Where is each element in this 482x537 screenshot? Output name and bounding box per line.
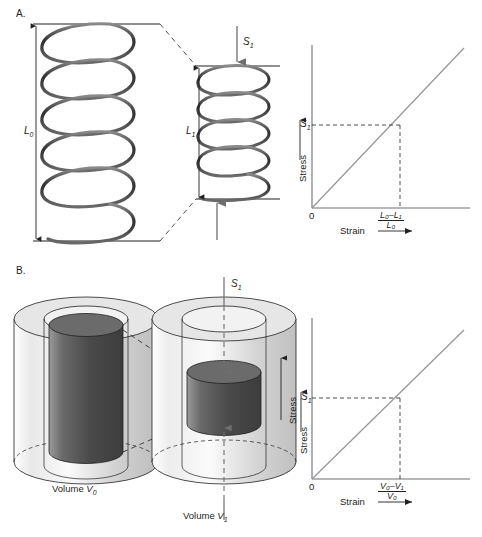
- compressed-volume-caption: Volume V1: [183, 510, 228, 523]
- cylinder-connector-lines: [123, 330, 186, 452]
- plot-b-xlabel: Strain: [340, 496, 365, 507]
- plot-b-ylabel: Stress: [298, 427, 309, 454]
- plot-a-xlabel: Strain: [340, 225, 365, 236]
- stress-strain-figure: A. L0 L1 S1 Stress S1 0 L₀–L₁ L₀ Strain …: [0, 0, 482, 537]
- relaxed-spring-group: [33, 24, 160, 243]
- cylinder-stress-label: Stress: [287, 397, 298, 424]
- relaxed-length-label: L0: [24, 125, 33, 138]
- compressed-length-label: L1: [186, 125, 195, 138]
- force-label-b: S1: [231, 278, 242, 291]
- plot-b-strain-fraction: V₀–V₁ V₀: [378, 482, 406, 502]
- panel-b-label: B.: [16, 265, 26, 276]
- plot-b-origin-label: 0: [309, 481, 314, 492]
- force-label-a: S1: [243, 36, 254, 49]
- plot-a-stress-level-label: S1: [300, 118, 311, 131]
- panel-a-label: A.: [16, 8, 26, 19]
- plot-a-ylabel: Stress: [297, 155, 308, 182]
- plot-b-graphics: [301, 318, 470, 502]
- compressed-cylinder-group: [152, 277, 296, 520]
- plot-b-stress-level-label: S1: [301, 391, 312, 404]
- relaxed-cylinder-group: [14, 297, 158, 484]
- relaxed-volume-caption: Volume V0: [52, 483, 97, 496]
- plot-a-origin-label: 0: [309, 210, 314, 221]
- compressed-spring-group: [196, 26, 280, 240]
- plot-a-graphics: [300, 45, 470, 231]
- figure-graphics: [0, 0, 482, 537]
- plot-a-strain-fraction: L₀–L₁ L₀: [378, 211, 404, 231]
